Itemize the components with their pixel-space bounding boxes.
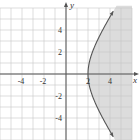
x-tick-label: -4: [18, 77, 25, 86]
y-tick-label: -2: [55, 92, 62, 101]
y-tick-label: 4: [58, 26, 62, 35]
y-axis-label: y: [69, 0, 74, 10]
y-axis-arrow-icon: [64, 2, 68, 7]
graph: -4-22442-2-4xy: [0, 0, 140, 140]
x-tick-label: 4: [108, 77, 112, 86]
y-tick-label: -4: [55, 114, 62, 123]
x-tick-label: 2: [86, 77, 90, 86]
x-tick-label: -2: [40, 77, 47, 86]
y-tick-label: 2: [58, 48, 62, 57]
x-axis-label: x: [132, 75, 137, 85]
